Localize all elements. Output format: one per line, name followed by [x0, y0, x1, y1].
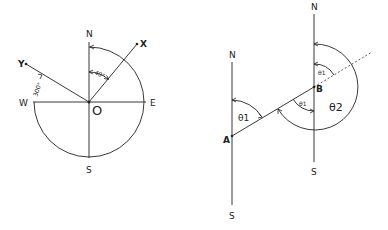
theta1-a-arrowhead-end	[258, 114, 262, 118]
east-label: E	[150, 98, 156, 108]
angle-300-arrowhead	[38, 74, 42, 79]
west-label: W	[19, 98, 28, 108]
angle-300-label: 300°	[31, 81, 43, 97]
point-a-label: A	[223, 135, 230, 145]
bearing-diagrams: N S W E O X Y 40° 300° N S N S A	[0, 0, 388, 230]
y-label: Y	[17, 59, 25, 69]
origin-label: O	[92, 103, 102, 118]
x-label: X	[140, 39, 147, 49]
point-b-dot	[313, 86, 316, 89]
line-ab	[232, 87, 314, 136]
point-b-label: B	[316, 84, 323, 94]
north-label: N	[86, 29, 93, 39]
north-label-a: N	[229, 50, 236, 60]
south-label-a: S	[229, 211, 235, 221]
point-a-dot	[231, 135, 234, 138]
point-y-dot	[25, 63, 28, 66]
theta1-label-a: θ1	[238, 113, 249, 123]
left-compass-diagram: N S W E O X Y 40° 300°	[17, 29, 156, 175]
right-bearing-diagram: N S N S A B θ1 θ1 θ1 θ2	[223, 2, 372, 221]
north-label-b: N	[311, 2, 318, 12]
south-label-b: S	[311, 167, 317, 177]
south-label: S	[86, 165, 92, 175]
point-x-dot	[136, 43, 139, 46]
theta2-label: θ2	[329, 101, 343, 114]
angle-40-label: 40°	[94, 69, 107, 80]
origin-point	[88, 101, 91, 104]
theta1-label-b-alt: θ1	[299, 100, 307, 107]
theta1-label-b-top: θ1	[318, 69, 326, 76]
